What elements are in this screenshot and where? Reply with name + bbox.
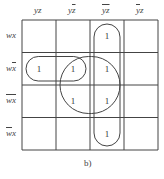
column-label: yz [68, 5, 76, 15]
column-label: yz [102, 5, 110, 15]
caption: b) [84, 158, 92, 168]
cell-value: 1 [71, 96, 76, 106]
row-label: wx [6, 63, 16, 73]
row-label: wx [6, 128, 16, 138]
cell-value: 1 [71, 64, 76, 74]
row-label: wx [6, 95, 16, 105]
cell-value: 1 [105, 31, 110, 41]
karnaugh-map: 1111111 [0, 0, 164, 179]
cell-value: 1 [105, 96, 110, 106]
column-label: yz [136, 5, 144, 15]
cell-value: 1 [105, 64, 110, 74]
column-label: yz [34, 5, 42, 15]
cell-value: 1 [105, 129, 110, 139]
cell-value: 1 [37, 64, 42, 74]
row-label: wx [6, 30, 16, 40]
